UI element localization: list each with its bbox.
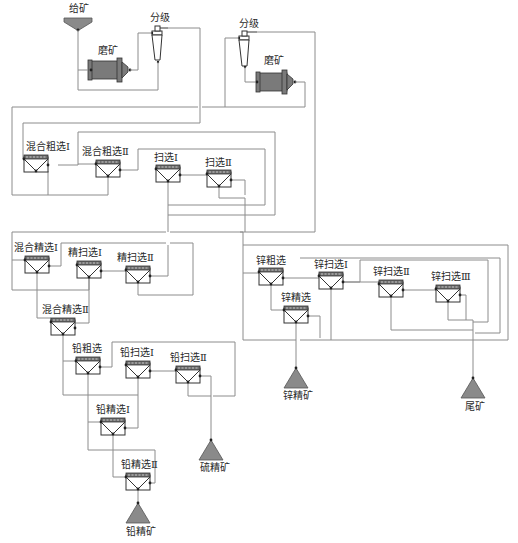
cyclone-classifier-icon — [238, 31, 257, 68]
flotation-cell-clean-scav-1 — [76, 261, 103, 278]
lead-concentrate-icon — [126, 502, 150, 523]
label-classify-1: 分级 — [150, 12, 170, 24]
label-tailings: 尾矿 — [465, 401, 485, 413]
flotation-cell-scav-1 — [155, 165, 182, 182]
label-zn-rough: 锌粗选 — [256, 255, 286, 267]
cyclone-classifier-icon — [151, 26, 168, 63]
label-bulk-rough-1: 混合粗选Ⅰ — [26, 141, 70, 153]
flotation-cell-pb-scav-2 — [175, 366, 202, 383]
label-zn-scav-2: 锌扫选Ⅱ — [373, 266, 410, 278]
label-scav-2: 扫选Ⅱ — [205, 157, 232, 169]
label-feed: 给矿 — [69, 3, 89, 15]
label-zn-scav-3: 锌扫选Ⅲ — [431, 271, 471, 283]
label-pb-conc: 铅精矿 — [126, 526, 156, 538]
flotation-cell-bulk-clean-1 — [24, 256, 51, 273]
zinc-concentrate-icon — [284, 367, 308, 388]
flotation-cell-bulk-clean-2 — [50, 318, 77, 335]
label-s-conc: 硫精矿 — [200, 462, 230, 474]
label-zn-scav-1: 锌扫选Ⅰ — [314, 259, 348, 271]
flotation-cell-pb-clean-2 — [125, 473, 152, 490]
label-mill-2: 磨矿 — [264, 55, 284, 67]
flotation-cell-scav-2 — [206, 170, 233, 187]
label-zn-clean: 锌精选 — [281, 292, 311, 304]
label-bulk-rough-2: 混合粗选Ⅱ — [82, 146, 129, 158]
label-bulk-clean-2: 混合精选Ⅱ — [42, 304, 89, 316]
flotation-cell-zn-clean — [283, 306, 310, 323]
flotation-cell-zn-rough — [258, 268, 285, 285]
bulk-flotation-pipes — [12, 107, 275, 232]
label-mill-1: 磨矿 — [98, 45, 118, 57]
label-pb-clean-1: 铅精选Ⅰ — [96, 404, 130, 416]
label-zn-conc: 锌精矿 — [283, 390, 313, 402]
flotation-cell-zn-scav-2 — [378, 280, 405, 297]
label-bulk-clean-1: 混合精选Ⅰ — [14, 242, 58, 254]
label-pb-scav-2: 铅扫选Ⅱ — [170, 352, 207, 364]
feed-hopper-icon — [64, 18, 92, 30]
label-classify-2: 分级 — [239, 18, 259, 30]
flotation-cell-pb-rough — [75, 357, 102, 374]
zinc-circuit-pipes — [243, 232, 508, 378]
flotation-cell-bulk-rough-1 — [23, 155, 50, 172]
label-pb-scav-1: 铅扫选Ⅰ — [120, 347, 154, 359]
flotation-cell-pb-scav-1 — [125, 361, 152, 378]
ball-mill-icon — [88, 58, 131, 82]
label-pb-clean-2: 铅精选Ⅱ — [121, 459, 158, 471]
flotation-cell-bulk-rough-2 — [95, 160, 122, 177]
label-pb-rough: 铅粗选 — [72, 343, 102, 355]
tailings-icon — [461, 377, 485, 398]
sulfur-concentrate-icon — [199, 439, 223, 460]
flotation-cell-zn-scav-3 — [435, 285, 462, 302]
label-scav-1: 扫选Ⅰ — [154, 152, 178, 164]
flotation-cell-clean-scav-2 — [125, 266, 152, 283]
flotation-cell-pb-clean-1 — [100, 418, 127, 435]
label-clean-scav-1: 精扫选Ⅰ — [68, 247, 102, 259]
label-clean-scav-2: 精扫选Ⅱ — [117, 252, 154, 264]
ball-mill-icon — [256, 70, 297, 94]
flotation-cell-zn-scav-1 — [318, 272, 345, 289]
